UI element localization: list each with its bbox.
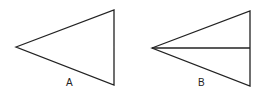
- triangle-a-outline: [16, 10, 114, 85]
- triangle-b-label: B: [198, 77, 205, 88]
- triangle-b: B: [152, 11, 250, 88]
- triangle-a-label: A: [66, 77, 73, 88]
- diagram-canvas: A B: [0, 0, 267, 95]
- triangle-a: A: [16, 10, 114, 88]
